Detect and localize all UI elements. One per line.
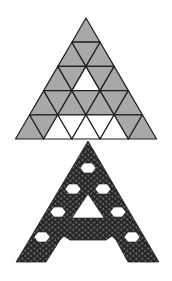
bottom-fractal-a-shape [16, 141, 159, 262]
fractal-diagram [0, 0, 172, 281]
grid-cell [72, 18, 100, 42]
top-triangle-grid [16, 18, 157, 139]
